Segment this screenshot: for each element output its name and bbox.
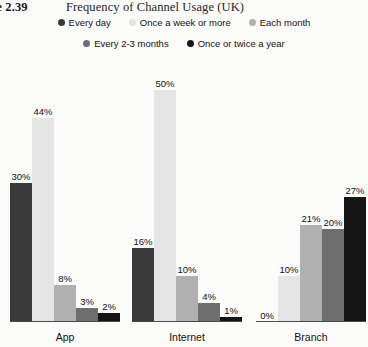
bar — [176, 276, 198, 322]
bar-column: 10% — [176, 62, 198, 322]
bar — [54, 285, 76, 322]
bar — [132, 248, 154, 322]
bar-column: 44% — [32, 62, 54, 322]
bar-value-label: 44% — [33, 106, 52, 117]
bar — [154, 90, 176, 322]
bar-value-label: 50% — [155, 78, 174, 89]
bar — [344, 197, 366, 322]
bar-column: 8% — [54, 62, 76, 322]
bar-group-bars: 16%50%10%4%1% — [132, 62, 242, 322]
bar-column: 4% — [198, 62, 220, 322]
bar — [32, 118, 54, 322]
bar-column: 21% — [300, 62, 322, 322]
bar-value-label: 0% — [260, 310, 274, 321]
bar-column: 1% — [220, 62, 242, 322]
bar-value-label: 3% — [80, 296, 94, 307]
bar-value-label: 8% — [58, 273, 72, 284]
bar-column: 10% — [278, 62, 300, 322]
bar-group: 30%44%8%3%2%App — [10, 0, 120, 347]
chart-figure: ure 2.39 Frequency of Channel Usage (UK)… — [0, 0, 368, 347]
bar-column: 50% — [154, 62, 176, 322]
bar-group-bars: 30%44%8%3%2% — [10, 62, 120, 322]
bar-group-bars: 0%10%21%20%27% — [256, 62, 366, 322]
bar-column: 2% — [98, 62, 120, 322]
bar-group: 0%10%21%20%27%Branch — [256, 0, 366, 347]
bar-value-label: 16% — [133, 236, 152, 247]
axis-baseline — [256, 321, 366, 322]
bar-column: 27% — [344, 62, 366, 322]
bar — [198, 303, 220, 322]
x-axis-category-label: Internet — [132, 331, 242, 343]
plot-area: 30%44%8%3%2%App16%50%10%4%1%Internet0%10… — [0, 0, 368, 347]
bar-column: 16% — [132, 62, 154, 322]
bar — [322, 229, 344, 322]
bar-column: 20% — [322, 62, 344, 322]
x-axis-category-label: App — [10, 331, 120, 343]
bar-value-label: 27% — [345, 185, 364, 196]
x-axis-category-label: Branch — [256, 331, 366, 343]
bar-value-label: 30% — [11, 171, 30, 182]
axis-baseline — [10, 321, 120, 322]
bar — [300, 225, 322, 322]
bar — [10, 183, 32, 322]
bar-value-label: 10% — [279, 264, 298, 275]
bar-value-label: 20% — [323, 217, 342, 228]
bar-value-label: 21% — [301, 213, 320, 224]
bar-value-label: 10% — [177, 264, 196, 275]
bar-group: 16%50%10%4%1%Internet — [132, 0, 242, 347]
bar-value-label: 2% — [102, 301, 116, 312]
bar-value-label: 4% — [202, 291, 216, 302]
bar-column: 30% — [10, 62, 32, 322]
bar — [278, 276, 300, 322]
bar-value-label: 1% — [224, 305, 238, 316]
bar-column: 3% — [76, 62, 98, 322]
bar — [76, 308, 98, 322]
bar-column: 0% — [256, 62, 278, 322]
axis-baseline — [132, 321, 242, 322]
